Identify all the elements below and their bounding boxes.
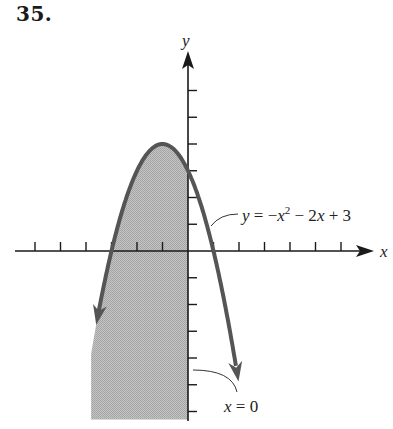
graph: y x y = −x2 − 2x + 3 x = 0 [0, 0, 393, 429]
curve-equation-label: y = −x2 − 2x + 3 [240, 204, 351, 225]
y-axis-label: y [180, 31, 190, 50]
curve-label-leader [211, 214, 238, 226]
x-axis [15, 242, 374, 257]
boundary-label-leader [193, 370, 237, 392]
x-axis-label: x [379, 242, 388, 261]
boundary-equation-label: x = 0 [223, 397, 258, 416]
